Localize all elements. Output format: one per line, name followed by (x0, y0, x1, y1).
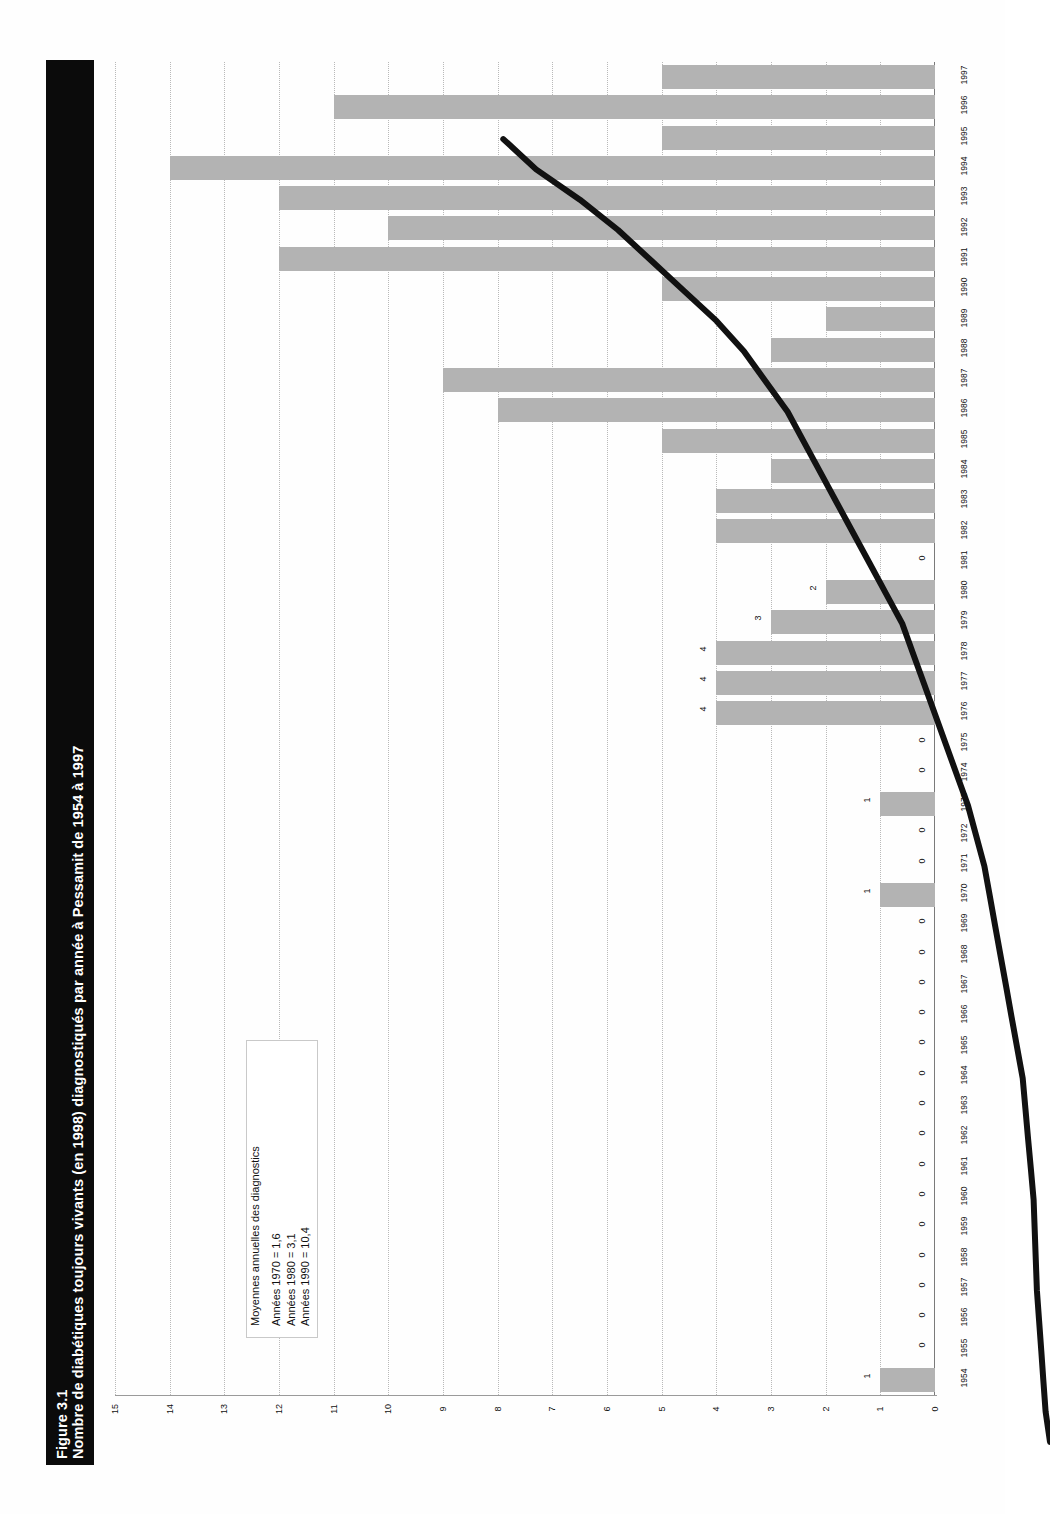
value-tick-0: 0 (930, 1396, 940, 1422)
bar-value-label: 0 (917, 763, 927, 777)
bar-row (115, 456, 935, 486)
bar-row (115, 365, 935, 395)
value-tick-1: 1 (875, 1396, 885, 1422)
value-tick-12: 12 (274, 1396, 284, 1422)
bar-row (115, 183, 935, 213)
bar-value-label: 0 (917, 1187, 927, 1201)
bar-1992 (388, 216, 935, 240)
bar-value-label: 2 (808, 581, 818, 595)
value-tick-2: 2 (821, 1396, 831, 1422)
bar-row (115, 123, 935, 153)
value-tick-14: 14 (165, 1396, 175, 1422)
bar-value-label: 0 (917, 945, 927, 959)
bar-row: 0 (115, 1031, 935, 1061)
bar-row (115, 516, 935, 546)
bar-1994 (170, 156, 935, 180)
bar-row: 1 (115, 789, 935, 819)
bar-value-label: 0 (917, 1005, 927, 1019)
bar-row: 0 (115, 850, 935, 880)
bar-value-label: 1 (862, 793, 872, 807)
bar-row: 0 (115, 1062, 935, 1092)
bar-row: 0 (115, 971, 935, 1001)
bar-row: 1 (115, 1365, 935, 1395)
averages-note-box (246, 1040, 318, 1338)
bar-row: 0 (115, 910, 935, 940)
bar-value-label: 1 (862, 1369, 872, 1383)
bar-row: 0 (115, 1122, 935, 1152)
bar-1990 (662, 277, 935, 301)
value-tick-8: 8 (493, 1396, 503, 1422)
bar-1984 (771, 459, 935, 483)
bar-1978 (716, 641, 935, 665)
bar-1983 (716, 489, 935, 513)
value-tick-5: 5 (657, 1396, 667, 1422)
bar-row: 4 (115, 668, 935, 698)
year-label-1954: 1954 (959, 1358, 969, 1398)
value-tick-7: 7 (547, 1396, 557, 1422)
bar-value-label: 0 (917, 1338, 927, 1352)
bar-1977 (716, 671, 935, 695)
bar-value-label: 0 (917, 823, 927, 837)
bar-value-label: 0 (917, 975, 927, 989)
bar-row (115, 395, 935, 425)
bar-value-label: 0 (917, 1126, 927, 1140)
bar-1996 (334, 95, 935, 119)
bar-row: 4 (115, 638, 935, 668)
bar-1973 (880, 792, 935, 816)
bar-value-label: 0 (917, 733, 927, 747)
bar-row: 0 (115, 1183, 935, 1213)
bar-value-label: 4 (698, 702, 708, 716)
bar-row: 0 (115, 729, 935, 759)
bar-value-label: 0 (917, 1035, 927, 1049)
bar-value-label: 4 (698, 672, 708, 686)
bar-row: 0 (115, 819, 935, 849)
bar-row (115, 304, 935, 334)
bar-row: 0 (115, 547, 935, 577)
value-tick-9: 9 (438, 1396, 448, 1422)
bar-row (115, 62, 935, 92)
bar-1989 (826, 307, 935, 331)
bar-row: 0 (115, 1334, 935, 1364)
bar-row: 0 (115, 1001, 935, 1031)
bar-row: 0 (115, 1213, 935, 1243)
bar-value-label: 0 (917, 1308, 927, 1322)
bar-row (115, 213, 935, 243)
bar-row: 0 (115, 1153, 935, 1183)
bar-1980 (826, 580, 935, 604)
bar-value-label: 4 (698, 642, 708, 656)
bar-row: 0 (115, 941, 935, 971)
value-tick-11: 11 (329, 1396, 339, 1422)
bar-1979 (771, 610, 935, 634)
bar-row (115, 335, 935, 365)
bar-value-label: 0 (917, 551, 927, 565)
bar-value-label: 0 (917, 1278, 927, 1292)
bar-row (115, 244, 935, 274)
bar-row: 2 (115, 577, 935, 607)
bar-1954 (880, 1368, 935, 1392)
bar-1987 (443, 368, 935, 392)
bar-1997 (662, 65, 935, 89)
bar-row (115, 274, 935, 304)
bar-1976 (716, 701, 935, 725)
bar-row: 0 (115, 1274, 935, 1304)
bar-row: 0 (115, 1092, 935, 1122)
bar-value-label: 0 (917, 1066, 927, 1080)
bar-value-label: 3 (753, 611, 763, 625)
value-tick-3: 3 (766, 1396, 776, 1422)
value-tick-13: 13 (219, 1396, 229, 1422)
bar-1970 (880, 883, 935, 907)
bar-row: 3 (115, 607, 935, 637)
title-band (46, 60, 94, 1465)
bar-value-label: 0 (917, 1096, 927, 1110)
bar-row: 0 (115, 759, 935, 789)
bar-row: 1 (115, 880, 935, 910)
bar-1985 (662, 429, 935, 453)
bar-1991 (279, 247, 935, 271)
plot-area: 0234440010010000000000000001 (115, 62, 935, 1395)
bar-1986 (498, 398, 935, 422)
bar-row (115, 153, 935, 183)
bar-row: 4 (115, 698, 935, 728)
value-tick-6: 6 (602, 1396, 612, 1422)
bar-value-label: 0 (917, 1217, 927, 1231)
bar-row: 0 (115, 1244, 935, 1274)
